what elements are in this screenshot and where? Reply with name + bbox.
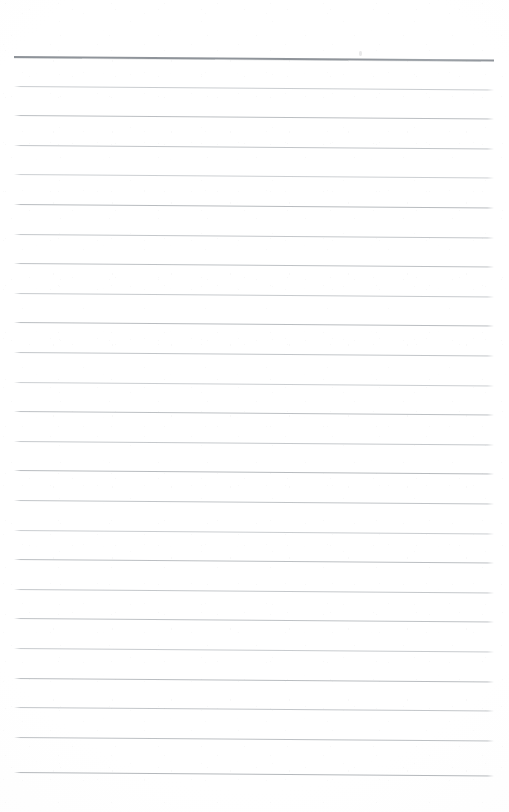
rule-line xyxy=(14,772,494,777)
rule-line xyxy=(14,559,494,564)
rule-line xyxy=(14,737,494,742)
rule-line xyxy=(14,115,494,120)
rule-line xyxy=(14,530,494,535)
rule-line xyxy=(14,293,494,298)
rule-line xyxy=(14,441,494,446)
rule-line xyxy=(14,500,494,505)
rule-line xyxy=(14,86,494,91)
ruled-lines-layer xyxy=(0,0,509,812)
rule-line xyxy=(14,322,494,327)
rule-line xyxy=(14,678,494,683)
rule-line xyxy=(14,618,494,623)
rule-line xyxy=(14,589,494,594)
header-rule-line xyxy=(14,56,494,62)
rule-line xyxy=(14,411,494,416)
scanned-page xyxy=(0,0,509,812)
rule-line xyxy=(14,174,494,179)
rule-line xyxy=(14,352,494,357)
rule-line xyxy=(14,382,494,387)
rule-line xyxy=(14,707,494,712)
rule-line xyxy=(14,145,494,150)
rule-line xyxy=(14,204,494,209)
rule-line xyxy=(14,234,494,239)
rule-line xyxy=(14,470,494,475)
rule-line xyxy=(14,648,494,653)
rule-line xyxy=(14,263,494,268)
